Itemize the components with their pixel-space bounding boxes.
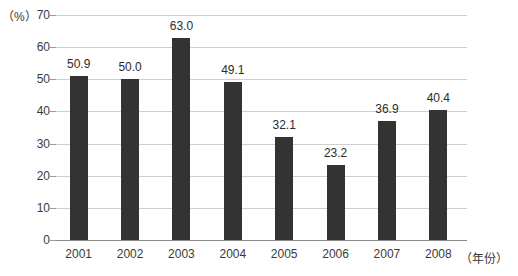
gridline — [56, 15, 467, 16]
x-axis-category-label: 2007 — [364, 248, 410, 260]
y-axis-tick-label: 60 — [20, 40, 50, 54]
gridline — [56, 208, 467, 209]
bar-value-label: 49.1 — [210, 64, 256, 76]
bar-value-label: 50.9 — [56, 58, 102, 70]
gridline — [56, 144, 467, 145]
y-axis-tick-label: 10 — [20, 201, 50, 215]
y-axis-tickmark — [50, 79, 56, 80]
x-axis-title: （年份） — [460, 249, 508, 266]
x-axis-category-label: 2004 — [210, 248, 256, 260]
bar-value-label: 40.4 — [415, 92, 461, 104]
x-axis-category-label: 2002 — [107, 248, 153, 260]
y-axis-tickmark — [50, 47, 56, 48]
bar-value-label: 23.2 — [313, 147, 359, 159]
y-axis-tickmark — [50, 240, 56, 241]
bar-value-label: 32.1 — [261, 119, 307, 131]
y-axis-tickmark — [50, 144, 56, 145]
bar — [327, 165, 345, 240]
bar — [275, 137, 293, 240]
x-axis-category-label: 2006 — [313, 248, 359, 260]
gridline — [56, 47, 467, 48]
bar-value-label: 36.9 — [364, 103, 410, 115]
y-axis-tick-label: 30 — [20, 137, 50, 151]
y-axis-tick-label: 20 — [20, 169, 50, 183]
bar-value-label: 50.0 — [107, 61, 153, 73]
y-axis-tick-label: 40 — [20, 104, 50, 118]
bar — [172, 38, 190, 241]
x-axis-category-label: 2001 — [56, 248, 102, 260]
y-axis-tickmark — [50, 176, 56, 177]
gridline — [56, 79, 467, 80]
bar — [70, 76, 88, 240]
bar-chart: （%） （年份） 010203040506070 200120022003200… — [0, 0, 518, 276]
x-axis-category-label: 2008 — [415, 248, 461, 260]
gridline — [56, 176, 467, 177]
x-axis-line — [56, 240, 467, 241]
y-axis-tick-label: 50 — [20, 72, 50, 86]
bar-value-label: 63.0 — [158, 20, 204, 32]
y-axis-tick-label: 70 — [20, 8, 50, 22]
y-axis-tickmark — [50, 208, 56, 209]
y-axis-tickmark — [50, 111, 56, 112]
x-axis-category-label: 2005 — [261, 248, 307, 260]
x-axis-category-label: 2003 — [158, 248, 204, 260]
bar — [224, 82, 242, 240]
bar — [378, 121, 396, 240]
bar — [429, 110, 447, 240]
y-axis-tick-label: 0 — [20, 233, 50, 247]
bar — [121, 79, 139, 240]
y-axis-tickmark — [50, 15, 56, 16]
